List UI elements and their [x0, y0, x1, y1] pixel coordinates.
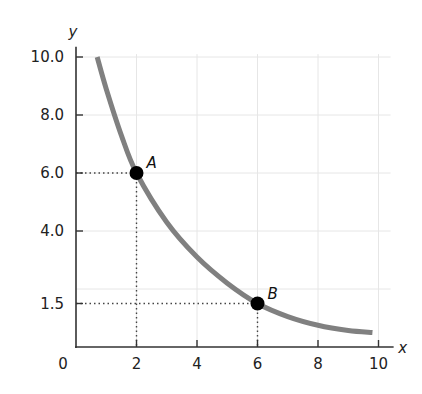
x-tick-label: 2 [132, 355, 142, 373]
x-tick-label: 4 [192, 355, 202, 373]
x-tick-label: 6 [253, 355, 263, 373]
x-tick-label: 8 [313, 355, 323, 373]
point-b [251, 297, 265, 311]
data-points: AB [130, 154, 278, 311]
chart: AB 1.54.06.08.010.02468100yx [0, 0, 422, 394]
x-tick-label: 10 [369, 355, 388, 373]
y-tick-label: 4.0 [40, 222, 64, 240]
point-a [130, 166, 144, 180]
y-tick-label: 8.0 [40, 106, 64, 124]
y-axis-name: y [68, 23, 79, 41]
y-tick-label: 6.0 [40, 164, 64, 182]
point-label-a: A [146, 154, 157, 172]
y-tick-label: 1.5 [40, 295, 64, 313]
point-label-b: B [268, 285, 278, 303]
gridlines [76, 54, 391, 347]
curve-line [97, 57, 372, 333]
origin-label: 0 [58, 355, 68, 373]
y-tick-label: 10.0 [31, 48, 64, 66]
guide-lines [76, 173, 258, 347]
x-axis-name: x [397, 339, 407, 357]
tick-labels: 1.54.06.08.010.02468100yx [31, 23, 408, 373]
